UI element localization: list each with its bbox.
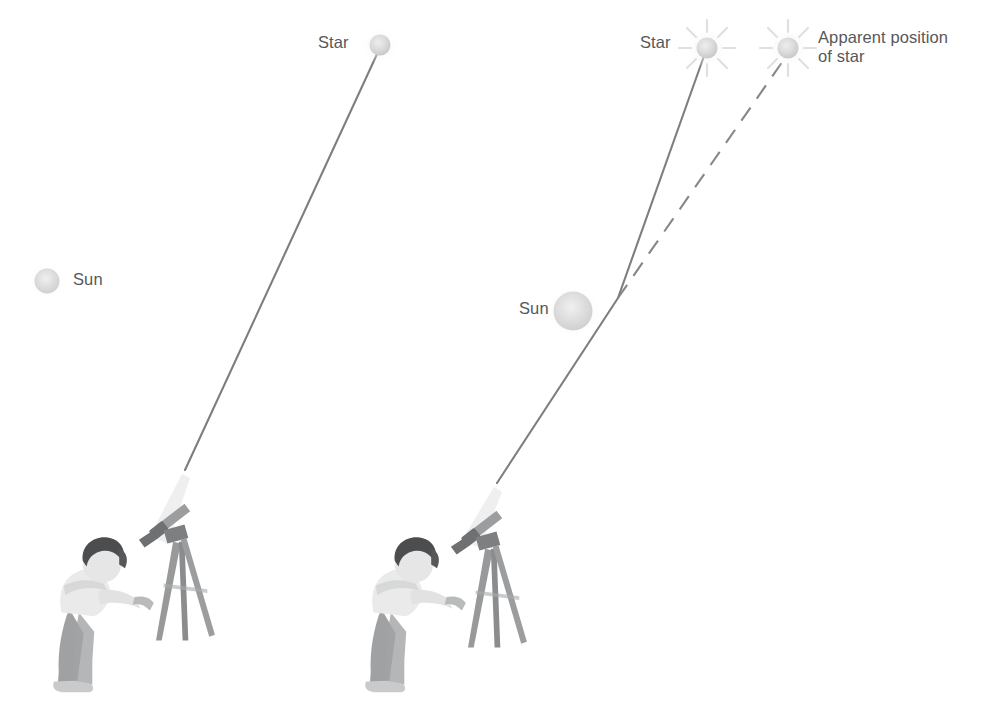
telescope-left: [139, 504, 215, 641]
observer-right: [365, 537, 466, 692]
label-sun-right: Sun: [519, 299, 549, 318]
label-apparent-position-line2: of star: [818, 47, 865, 66]
observer-left: [53, 537, 154, 692]
label-sun-left: Sun: [73, 270, 103, 289]
star-left: [361, 26, 399, 64]
telescope-right: [451, 511, 527, 648]
label-apparent-position-line1: Apparent position: [818, 28, 948, 47]
label-star-right: Star: [640, 33, 671, 52]
star-right: [679, 20, 735, 76]
star-apparent: [760, 20, 816, 76]
label-star-left: Star: [318, 33, 349, 52]
light-deflection-diagram: Star Sun Star Sun Apparent position of s…: [0, 0, 995, 704]
panel-deflected: [365, 20, 816, 692]
panel-undeflected: [27, 26, 399, 692]
light-ray-deflected: [497, 56, 704, 483]
light-ray-straight: [185, 52, 378, 470]
sun-right: [543, 281, 603, 341]
sun-left: [27, 261, 67, 301]
apparent-sightline-dashed: [618, 58, 785, 298]
diagram-canvas: [0, 0, 995, 704]
